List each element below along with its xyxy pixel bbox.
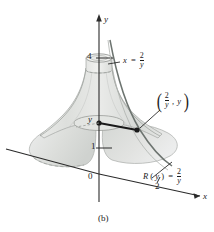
curve-equation-fraction: 2 y [140,52,144,69]
leader-point-label [140,110,160,128]
y-axis-label: y [104,15,108,24]
x-axis-arrowhead [194,193,201,199]
radius-relation: = [166,172,175,181]
figure-caption: (b) [98,214,109,223]
point-fraction: 2 y [165,92,169,109]
point-coordinate-label: ( 2 y , y ) [156,92,190,110]
point-second-coordinate: y [177,97,181,106]
x-axis-label: x [203,192,207,201]
y-axis-arrowhead [96,14,102,22]
point-close-paren: ) [184,92,189,110]
y-tick-label-1: 1 [91,142,96,151]
point-comma: , [171,97,175,106]
radius-denominator: y [177,176,181,185]
radius-numerator: 2 [177,168,181,176]
solid-bell-surface [40,68,162,138]
origin-label: 0 [88,172,93,181]
point-numerator: 2 [165,92,169,100]
figure-graphic [0,0,214,232]
radius-arg-close: ) [161,172,164,181]
radius-function-label: R ( y ) = 2 y [143,168,181,185]
curve-equation-numerator: 2 [140,52,144,60]
solid-lower-flare-left [29,124,96,167]
curve-equation-denominator: y [140,60,144,69]
radius-lhs: R [143,172,148,181]
point-denominator: y [165,100,169,109]
height-variable-label: y [88,115,92,124]
point-open-paren: ( [157,92,162,110]
y-tick-label-4: 4 [87,52,92,61]
radius-arg: y [155,172,159,181]
radius-fraction: 2 y [177,168,181,185]
curve-equation-relation: = [129,56,138,65]
curve-equation-label: x = 2 y [123,52,144,69]
figure-solid-of-revolution: y x 4 1 0 2 y x = 2 y ( 2 y , y ) R ( y … [0,0,214,232]
curve-equation-lhs: x [123,56,127,65]
radius-arg-open: ( [150,172,153,181]
point-dot [134,127,139,132]
